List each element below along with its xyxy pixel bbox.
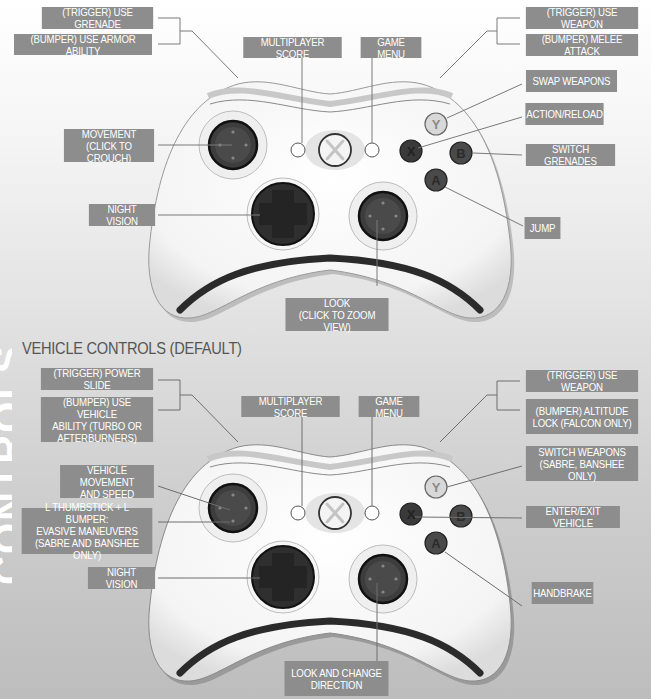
svg-text:B: B [456,509,465,524]
label-vehicle-trigger-right: (TRIGGER) USE WEAPON [526,370,638,392]
label-text: (SABRE AND BANSHEE ONLY) [27,537,147,561]
label-vehicle-multiplayer-score: MULTIPLAYER SCORE [241,396,339,417]
label-text: (CLICK TO CROUCH) [69,140,148,164]
label-text: GAME MENU [366,36,416,60]
svg-text:A: A [431,173,441,188]
label-text: HANDBRAKE [533,587,591,599]
label-text: GAME MENU [364,395,414,419]
controller-vehicle: Y X B A [149,445,514,685]
controller-infantry: Y X B A [149,82,514,322]
label-game-menu: GAME MENU [361,37,422,58]
label-text: (TRIGGER) POWER SLIDE [46,367,147,391]
label-text: SWITCH WEAPONS [538,446,626,458]
label-trigger-left: (TRIGGER) USE GRENADE [42,7,153,29]
svg-text:X: X [407,144,416,159]
label-vehicle-right-stick: LOOK AND CHANGE DIRECTION [285,661,389,696]
svg-text:X: X [407,507,416,522]
label-text: (BUMPER) USE ARMOR ABILITY [20,33,147,57]
label-text: AND SPEED [80,488,134,500]
label-text: (BUMPER) USE VEHICLE [46,396,147,420]
label-text: ENTER/EXIT VEHICLE [532,505,615,529]
label-dpad: NIGHT VISION [89,204,155,226]
section-title-vehicle-controls: VEHICLE CONTROLS (DEFAULT) [22,339,242,359]
label-text: ABILITY (TURBO OR [52,420,142,432]
label-text: NIGHT VISION [93,566,149,590]
label-text: SWAP WEAPONS [533,75,611,87]
label-vehicle-trigger-left: (TRIGGER) POWER SLIDE [41,368,153,390]
label-vehicle-a-button: HANDBRAKE [532,582,594,604]
label-vehicle-y-button: SWITCH WEAPONS (SABRE, BANSHEE ONLY) [526,446,638,481]
label-text: MULTIPLAYER SCORE [247,395,334,419]
label-vehicle-evasive-maneuvers: L THUMBSTICK + L BUMPER: EVASIVE MANEUVE… [22,508,153,554]
label-bumper-left: (BUMPER) USE ARMOR ABILITY [14,34,152,55]
label-text: DIRECTION [311,679,362,691]
label-vehicle-left-stick: VEHICLE MOVEMENT AND SPEED [60,465,154,498]
label-text: ACTION/RELOAD [526,108,603,120]
label-text: JUMP [530,222,556,234]
label-x-button: ACTION/RELOAD [525,103,603,125]
label-bumper-right: (BUMPER) MELEE ATTACK [526,34,638,56]
label-text: L THUMBSTICK + L BUMPER: [27,501,147,525]
label-text: (CLICK TO ZOOM VIEW) [291,309,383,333]
svg-text:B: B [456,146,465,161]
label-vehicle-x-b-button: ENTER/EXIT VEHICLE [526,506,620,528]
label-b-button: SWITCH GRENADES [526,144,615,166]
svg-text:Y: Y [432,117,441,132]
label-text: NIGHT VISION [94,203,149,227]
label-vehicle-bumper-left: (BUMPER) USE VEHICLE ABILITY (TURBO OR A… [41,397,153,442]
label-left-stick: MOVEMENT (CLICK TO CROUCH) [64,129,154,162]
label-multiplayer-score: MULTIPLAYER SCORE [243,37,341,58]
svg-text:A: A [431,536,441,551]
label-text: (BUMPER) ALTITUDE [536,405,629,417]
label-a-button: JUMP [525,217,561,239]
svg-text:Y: Y [432,480,441,495]
label-text: (TRIGGER) USE WEAPON [531,6,632,30]
label-text: VEHICLE MOVEMENT [66,464,149,488]
label-text: MOVEMENT [82,128,136,140]
label-vehicle-dpad: NIGHT VISION [88,567,155,589]
label-text: (SABRE, BANSHEE ONLY) [531,458,632,482]
label-text: (TRIGGER) USE GRENADE [47,6,147,30]
label-trigger-right: (TRIGGER) USE WEAPON [526,7,638,29]
label-text: MULTIPLAYER SCORE [249,36,336,60]
label-text: LOOK AND CHANGE [291,667,382,679]
label-text: LOCK (FALCON ONLY) [532,417,631,429]
label-text: AFTERBURNERS) [57,432,137,444]
label-right-stick: LOOK (CLICK TO ZOOM VIEW) [285,298,388,331]
label-text: (TRIGGER) USE WEAPON [531,369,632,393]
label-text: EVASIVE MANEUVERS [36,525,137,537]
label-text: LOOK [324,297,350,309]
label-text: SWITCH GRENADES [531,143,609,167]
label-vehicle-game-menu: GAME MENU [359,396,420,417]
label-y-button: SWAP WEAPONS [526,70,617,92]
label-text: (BUMPER) MELEE ATTACK [531,33,632,57]
label-vehicle-bumper-right: (BUMPER) ALTITUDE LOCK (FALCON ONLY) [526,399,638,434]
